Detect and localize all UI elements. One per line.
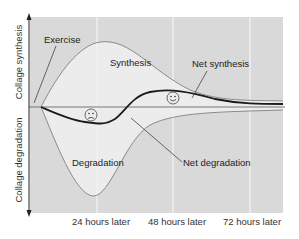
label-synthesis: Synthesis bbox=[110, 57, 151, 68]
label-net-synthesis: Net synthesis bbox=[192, 58, 249, 69]
label-net-degradation: Net degradation bbox=[183, 157, 251, 168]
label-degradation: Degradation bbox=[72, 157, 124, 168]
y-label-synthesis: Collage synthesis bbox=[13, 25, 24, 100]
label-exercise: Exercise bbox=[44, 34, 80, 45]
collagen-diagram: Collage synthesis Collage degradation Ex… bbox=[0, 0, 299, 239]
x-tick-48h: 48 hours later bbox=[148, 216, 206, 227]
y-label-degradation: Collage degradation bbox=[13, 117, 24, 202]
y-axis-arrow-down-icon bbox=[27, 210, 32, 217]
x-tick-24h: 24 hours later bbox=[72, 216, 130, 227]
y-axis-arrow-up-icon bbox=[27, 13, 32, 20]
x-tick-72h: 72 hours later bbox=[223, 216, 281, 227]
